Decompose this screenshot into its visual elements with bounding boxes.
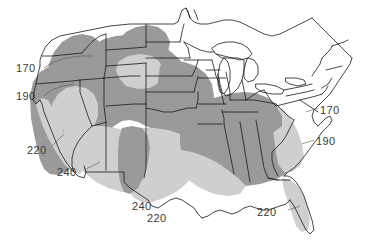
contour-label-220-gulf-texas: 220 bbox=[147, 212, 167, 224]
line-nd-mn bbox=[180, 24, 184, 42]
line-va-md bbox=[300, 94, 322, 100]
line-ny-vt bbox=[312, 58, 322, 76]
boundary-minnesota-north bbox=[194, 10, 198, 20]
us-contour-map-svg bbox=[0, 0, 365, 240]
contour-label-220-florida: 220 bbox=[257, 206, 277, 218]
line-wv-va bbox=[276, 100, 300, 106]
contour-label-170-northwest: 170 bbox=[16, 62, 36, 74]
boundary-gulf-coast bbox=[202, 200, 290, 218]
boundary-lake-superior bbox=[212, 42, 252, 60]
line-ma-ct bbox=[326, 66, 342, 70]
contour-label-170-midatlantic: 170 bbox=[320, 104, 340, 116]
boundary-lake-ontario bbox=[286, 78, 306, 86]
contour-label-240-texas: 240 bbox=[132, 200, 152, 212]
boundary-lake-erie bbox=[256, 84, 284, 94]
line-vt-nh bbox=[322, 46, 332, 58]
boundary-lake-of-woods bbox=[186, 8, 190, 18]
boundary-new-england bbox=[312, 18, 352, 58]
contour-label-190-virginia: 190 bbox=[316, 135, 336, 147]
contour-label-240-socal: 240 bbox=[57, 166, 77, 178]
contour-label-190-northwest: 190 bbox=[16, 90, 36, 102]
shade-light-florida bbox=[282, 178, 310, 232]
contour-190-east bbox=[302, 140, 314, 144]
line-pa-ny bbox=[284, 84, 312, 90]
contour-label-220-california: 220 bbox=[27, 144, 47, 156]
line-nj bbox=[322, 78, 332, 88]
contour-170-east bbox=[306, 108, 318, 112]
line-pa-md bbox=[286, 90, 314, 96]
boundary-lake-huron bbox=[244, 58, 258, 82]
shading-bands bbox=[30, 25, 310, 232]
line-va-nc-coast bbox=[300, 100, 318, 112]
contour-map-figure: 170 190 220 240 240 220 220 170 190 bbox=[0, 0, 365, 240]
